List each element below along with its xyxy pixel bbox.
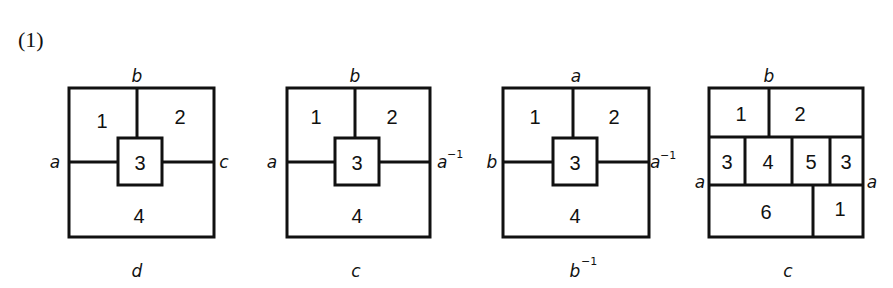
region-2: 2: [794, 103, 805, 125]
edge-label-bottom: b: [570, 261, 581, 281]
region-3: 3: [134, 152, 145, 174]
edge-label-left: b: [487, 152, 498, 172]
edge-label-bottom: d: [132, 261, 143, 281]
region-3: 3: [351, 152, 362, 174]
region-3-right: 3: [840, 151, 851, 173]
region-1: 1: [529, 106, 540, 128]
diagram-1: b a c d 1 2 3 4: [50, 66, 230, 281]
edge-label-right: c: [219, 152, 229, 172]
region-4: 4: [133, 205, 144, 227]
diagram-canvas: (1) b a c d 1 2 3 4 b a a −1 c 1 2 3 4: [0, 0, 893, 288]
edge-label-right: a: [437, 152, 447, 172]
region-1: 1: [735, 103, 746, 125]
region-6: 6: [760, 201, 771, 223]
region-2: 2: [386, 106, 397, 128]
edge-label-bottom: c: [351, 261, 361, 281]
edge-label-right-exponent: −1: [447, 148, 463, 161]
diagram-4: b a a c 1 2 3 4 5 3 6 1: [695, 66, 877, 281]
region-1: 1: [310, 106, 321, 128]
edge-label-bottom-exponent: −1: [581, 255, 597, 268]
diagram-2: b a a −1 c 1 2 3 4: [267, 66, 463, 281]
edge-label-top: b: [764, 66, 775, 86]
region-2: 2: [608, 106, 619, 128]
region-2: 2: [174, 106, 185, 128]
region-1-bottom: 1: [834, 198, 845, 220]
edge-label-right: a: [650, 152, 660, 172]
region-3: 3: [569, 152, 580, 174]
edge-label-right: a: [867, 172, 877, 192]
region-1: 1: [96, 110, 107, 132]
region-3-left: 3: [721, 151, 732, 173]
region-4: 4: [762, 151, 773, 173]
region-4: 4: [569, 205, 580, 227]
edge-label-left: a: [695, 172, 705, 192]
part-label: (1): [18, 27, 44, 52]
region-4: 4: [351, 205, 362, 227]
edge-label-top: a: [571, 66, 581, 86]
edge-label-right-exponent: −1: [660, 149, 676, 162]
region-5: 5: [805, 151, 816, 173]
edge-label-top: b: [132, 66, 143, 86]
edge-label-bottom: c: [783, 261, 793, 281]
edge-label-left: a: [267, 152, 277, 172]
diagram-3: a b a −1 b −1 1 2 3 4: [487, 66, 677, 281]
edge-label-top: b: [350, 66, 361, 86]
edge-label-left: a: [50, 152, 60, 172]
